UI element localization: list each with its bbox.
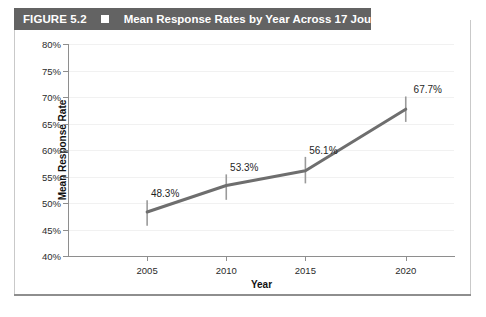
data-point-label: 56.1% xyxy=(309,145,337,156)
chart-canvas: Mean Response Rate Year 40%45%50%55%60%6… xyxy=(14,34,471,289)
error-bars xyxy=(147,96,406,225)
figure-header-bar: FIGURE 5.2 Mean Response Rates by Year A… xyxy=(14,8,371,30)
figure-title: Mean Response Rates by Year Across 17 Jo… xyxy=(124,13,399,25)
figure-number: FIGURE 5.2 xyxy=(23,13,87,25)
figure-bottom-rule xyxy=(14,294,471,296)
figure-container: FIGURE 5.2 Mean Response Rates by Year A… xyxy=(0,0,486,317)
data-point-label: 53.3% xyxy=(230,162,258,173)
data-point-label: 67.7% xyxy=(414,84,442,95)
response-rate-line xyxy=(147,109,406,212)
filled-square-icon xyxy=(101,15,109,23)
data-point-label: 48.3% xyxy=(151,188,179,199)
